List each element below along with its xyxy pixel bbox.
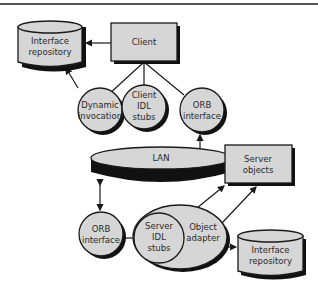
interface-repository-top-label-2: repository: [29, 47, 72, 57]
corba-architecture-diagram: Interface repository Client Dynamic invo…: [0, 0, 318, 283]
object-adapter-ellipse: Server IDL stubs Object adapter: [133, 205, 230, 272]
interface-repository-bottom-label-2: repository: [249, 256, 292, 266]
client-idl-stubs-label-2: IDL: [137, 101, 151, 111]
lan-label: LAN: [152, 153, 169, 163]
dynamic-invocation-label-2: invocation: [78, 111, 122, 121]
orb-interface-bottom-label-1: ORB: [92, 224, 111, 234]
interface-repository-top-label-1: Interface: [31, 36, 69, 46]
dynamic-invocation-label-1: Dynamic: [81, 100, 119, 110]
server-objects-label-2: objects: [243, 165, 274, 175]
server-idl-stubs-label-1: Server: [145, 221, 173, 231]
lan-disk: LAN: [91, 147, 231, 182]
orb-interface-top-label-2: interface: [183, 111, 221, 121]
client-idl-stubs-label-1: Client: [132, 90, 157, 100]
orb-interface-top-label-1: ORB: [193, 100, 212, 110]
object-adapter-label-2: adapter: [186, 233, 220, 243]
client-label: Client: [132, 37, 157, 47]
server-objects-box: Server objects: [225, 145, 295, 186]
client-box: Client: [111, 23, 180, 64]
dynamic-invocation-circle: Dynamic invocation: [78, 88, 125, 135]
server-objects-label-1: Server: [244, 154, 272, 164]
orb-interface-bottom-label-2: interface: [82, 235, 120, 245]
interface-repository-top-cylinder: Interface repository: [18, 21, 86, 72]
client-idl-stubs-circle: Client IDL stubs: [122, 85, 169, 132]
interface-repository-bottom-label-1: Interface: [251, 245, 289, 255]
server-idl-stubs-label-3: stubs: [148, 243, 172, 253]
orb-interface-bottom-circle: ORB interface: [79, 212, 126, 259]
object-adapter-label-1: Object: [189, 222, 217, 232]
client-idl-stubs-label-3: stubs: [133, 112, 157, 122]
server-idl-stubs-label-2: IDL: [152, 232, 166, 242]
orb-interface-top-circle: ORB interface: [180, 88, 227, 135]
interface-repository-bottom-cylinder: Interface repository: [238, 230, 306, 280]
